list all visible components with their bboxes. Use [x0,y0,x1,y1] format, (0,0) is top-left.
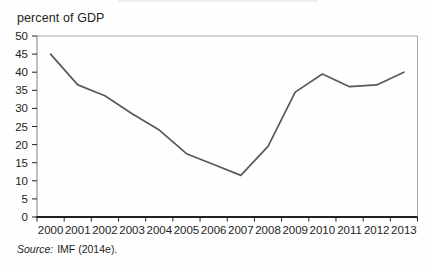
x-tick-label: 2002 [92,224,118,236]
x-tick-label: 2005 [174,224,200,236]
x-tick-label: 2013 [391,224,417,236]
x-tick-label: 2006 [201,224,227,236]
x-tick-label: 2004 [147,224,173,236]
x-tick-label: 2012 [364,224,390,236]
y-tick-label: 45 [15,48,28,60]
x-tick-label: 2007 [228,224,254,236]
y-tick-label: 25 [15,121,28,133]
y-tick-label: 50 [15,30,28,42]
y-tick-label: 30 [15,102,28,114]
source-text: IMF (2014e). [57,243,117,255]
y-tick-label: 35 [15,84,28,96]
y-tick-label: 10 [15,175,28,187]
x-tick-label: 2001 [65,224,91,236]
y-tick-label: 15 [15,157,28,169]
y-tick-label: 5 [22,193,28,205]
x-tick-label: 2000 [38,224,64,236]
y-tick-label: 0 [22,211,28,223]
x-tick-label: 2009 [282,224,308,236]
y-tick-label: 40 [15,66,28,78]
line-chart-canvas: 0510152025303540455020002001200220032004… [0,0,429,267]
chart-figure: percent of GDP 0510152025303540455020002… [0,0,429,267]
x-tick-label: 2003 [119,224,145,236]
x-tick-label: 2008 [255,224,281,236]
x-tick-label: 2011 [337,224,362,236]
data-line [51,54,404,175]
x-tick-label: 2010 [310,224,336,236]
y-tick-label: 20 [15,139,28,151]
source-label: Source: [17,243,53,255]
source-note: Source:IMF (2014e). [17,243,117,255]
